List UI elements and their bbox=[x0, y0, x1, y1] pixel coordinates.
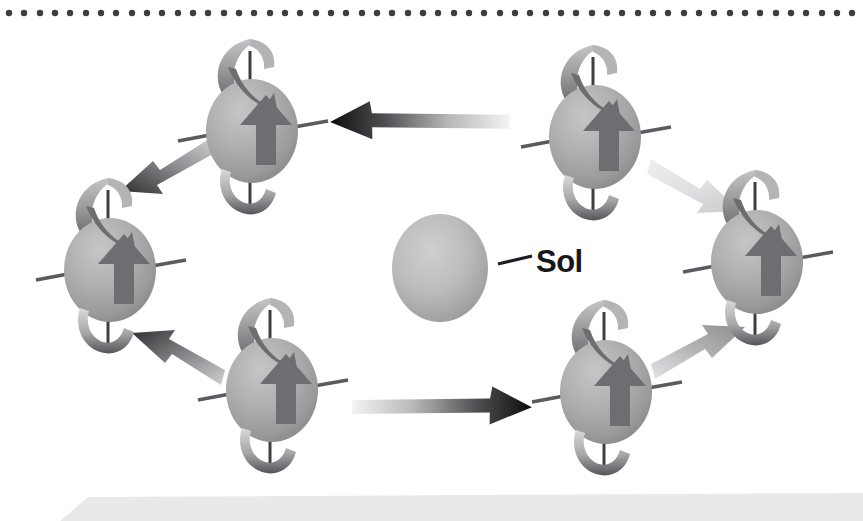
orbit-arrow-lower-left bbox=[132, 330, 225, 385]
planet-top-right bbox=[521, 45, 671, 220]
planet-bottom-right bbox=[532, 300, 682, 475]
sol-body bbox=[392, 214, 488, 322]
caption-bar bbox=[60, 493, 863, 521]
diagram-svg: Sol bbox=[0, 0, 863, 521]
dotted-rule bbox=[6, 10, 855, 16]
planet-bottom-left bbox=[198, 298, 348, 473]
orbit-arrow-lower-right bbox=[651, 325, 745, 379]
sol-leader-line bbox=[498, 256, 532, 264]
planet-top-left bbox=[178, 39, 328, 214]
figure-canvas: Sol bbox=[0, 0, 863, 521]
orbit-arrow-bottom bbox=[352, 384, 533, 425]
orbit-arrow-upper-left bbox=[120, 139, 213, 194]
orbit-arrow-top bbox=[330, 99, 511, 140]
sol-label: Sol bbox=[536, 244, 583, 279]
planet-middle-left bbox=[36, 178, 186, 353]
